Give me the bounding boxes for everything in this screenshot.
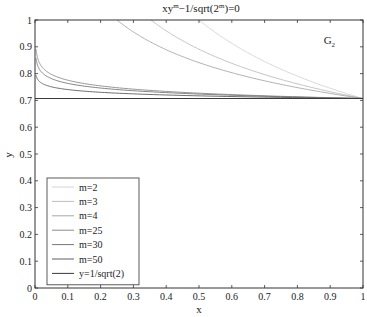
x-tick-label: 0.7 [258,291,271,302]
chart-title: xym−1/sqrt(2m)=0 [162,2,240,15]
y-tick-label: 0.6 [20,122,33,133]
y-tick-label: 0.8 [20,68,33,79]
y-tick-label: 0.4 [20,175,33,186]
x-tick-label: 0.3 [127,291,140,302]
svg-text:y=1/sqrt(2): y=1/sqrt(2) [79,268,124,280]
svg-text:m=30: m=30 [79,239,102,250]
x-tick-label: 0.2 [94,291,107,302]
x-tick-label: 0.9 [324,291,337,302]
y-tick-label: 0.1 [20,256,33,267]
x-tick-label: 1 [361,291,366,302]
legend: m=2m=3m=4m=25m=30m=50y=1/sqrt(2) [47,178,139,285]
y-tick-label: 0 [27,283,32,294]
x-tick-label: 0.1 [62,291,75,302]
svg-text:m=4: m=4 [79,210,97,221]
x-axis-label: x [196,303,202,315]
x-tick-label: 0 [33,291,38,302]
y-tick-label: 1 [27,15,32,26]
y-tick-label: 0.3 [20,202,33,213]
y-tick-label: 0.9 [20,41,33,52]
y-tick-label: 0.7 [20,95,33,106]
x-tick-label: 0.4 [160,291,173,302]
svg-text:m=3: m=3 [79,196,97,207]
svg-text:m=25: m=25 [79,225,102,236]
y-tick-label: 0.2 [20,229,33,240]
x-tick-label: 0.6 [226,291,239,302]
svg-text:m=2: m=2 [79,182,97,193]
x-tick-label: 0.8 [291,291,304,302]
x-tick-label: 0.5 [193,291,206,302]
y-tick-label: 0.5 [20,149,33,160]
chart: xym−1/sqrt(2m)=0 00.10.20.30.40.50.60.70… [0,0,367,317]
svg-text:m=50: m=50 [79,254,102,265]
y-axis-label: y [2,152,14,158]
